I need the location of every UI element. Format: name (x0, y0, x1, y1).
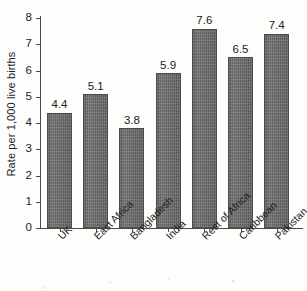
y-tick-label: 2 (26, 170, 32, 182)
bar-value-label: 5.1 (88, 81, 104, 93)
y-tick-label: 0 (26, 222, 32, 234)
y-tick-mark (36, 97, 40, 98)
y-tick-mark (36, 71, 40, 72)
scan-artifact (0, 275, 307, 291)
bar-value-label: 7.6 (196, 15, 212, 27)
y-tick-label: 3 (26, 144, 32, 156)
plot-area: 4.45.13.85.97.66.57.4 (41, 18, 303, 228)
y-tick-label: 8 (26, 12, 32, 24)
y-tick-label: 7 (26, 39, 32, 51)
y-tick-mark (36, 202, 40, 203)
bar-value-label: 4.4 (52, 99, 68, 111)
bar-value-label: 7.4 (269, 20, 285, 32)
y-tick-mark (36, 18, 40, 19)
bar: 7.4 (264, 34, 289, 228)
bar: 4.4 (47, 113, 72, 229)
y-tick-mark (36, 176, 40, 177)
bar: 7.6 (192, 29, 217, 229)
bar: 5.1 (83, 94, 108, 228)
bar-value-label: 5.9 (160, 60, 176, 72)
y-tick-label: 4 (26, 117, 32, 129)
y-tick-label: 5 (26, 91, 32, 103)
y-tick-mark (36, 123, 40, 124)
y-tick-mark (36, 228, 40, 229)
bar-chart: Rate per 1,000 live births 012345678 4.4… (0, 0, 307, 291)
bar-value-label: 3.8 (124, 115, 140, 127)
y-tick-mark (36, 44, 40, 45)
bar-value-label: 6.5 (233, 44, 249, 56)
y-tick-label: 6 (26, 65, 32, 77)
y-tick-label: 1 (26, 196, 32, 208)
y-tick-mark (36, 149, 40, 150)
y-axis-title: Rate per 1,000 live births (5, 19, 17, 209)
